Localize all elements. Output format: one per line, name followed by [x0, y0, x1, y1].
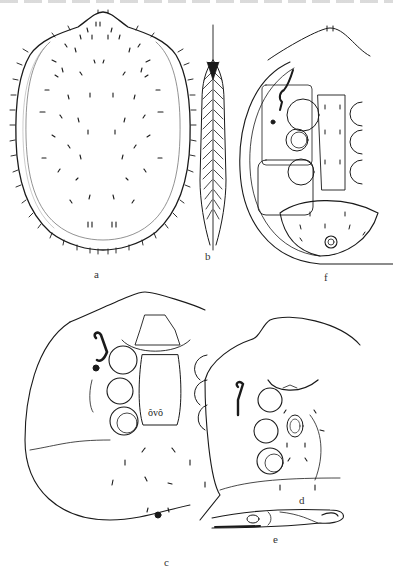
panel-c-ventral-view: ôvô [25, 292, 207, 520]
panel-b-plumose-seta [200, 25, 226, 250]
panel-d-label: d [299, 495, 305, 506]
panel-c-label: c [164, 557, 169, 568]
panel-a-label: a [94, 269, 99, 280]
panel-e-chelicera [212, 509, 343, 528]
panel-a-dorsal-shield [10, 10, 196, 254]
panel-e-label: e [273, 534, 278, 545]
svg-text:ôvô: ôvô [148, 407, 163, 418]
figure-plate: ôvô [0, 0, 393, 569]
panel-b-label: b [205, 251, 211, 262]
panel-d-ventral-view [200, 317, 360, 520]
panel-f-ventral-view [240, 26, 393, 264]
panel-f-label: f [324, 272, 328, 283]
